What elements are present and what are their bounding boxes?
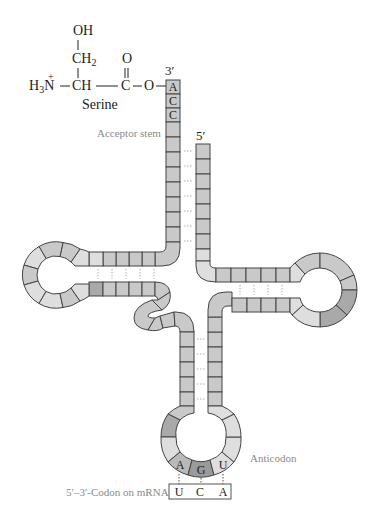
d-loop [22, 242, 89, 308]
three-prime-label: 3′ [165, 63, 175, 78]
methylene-group: CH2 [72, 51, 96, 68]
alpha-carbon: CH [72, 78, 91, 93]
trna-diagram: OH CH2 O H3N + CH C O Serine 3′ 5′ Accep… [0, 0, 377, 519]
hydroxyl-group: OH [73, 23, 93, 38]
carbonyl-oxygen: O [122, 51, 132, 66]
carbonyl-carbon: C [121, 78, 130, 93]
positive-charge: + [48, 71, 54, 82]
acceptor-stem: A C C [166, 80, 210, 261]
acceptor-stem-label: Acceptor stem [97, 127, 161, 139]
acceptor-base-c1: C [169, 94, 177, 108]
anticodon-loop: A G U [161, 406, 241, 477]
anticodon-label: Anticodon [250, 452, 297, 464]
mrna-codon: U C A 5′–3′-Codon on mRNA [66, 474, 231, 499]
acceptor-base-a: A [169, 80, 178, 94]
anticodon-base-2: G [197, 463, 206, 477]
codon-base-2: C [196, 485, 204, 499]
anticodon-stem [180, 292, 232, 406]
codon-base-1: U [175, 485, 184, 499]
serine-structure: OH CH2 O H3N + CH C O Serine [29, 23, 166, 112]
ester-oxygen: O [144, 78, 154, 93]
codon-label: 5′–3′-Codon on mRNA [66, 486, 169, 498]
codon-base-3: A [219, 485, 228, 499]
d-arm [22, 242, 180, 308]
acceptor-base-c2: C [169, 108, 177, 122]
t-loop [290, 253, 357, 327]
five-prime-label: 5′ [196, 128, 206, 143]
serine-label: Serine [82, 97, 118, 112]
anticodon-base-3: U [219, 458, 228, 472]
anticodon-base-1: A [176, 458, 185, 472]
